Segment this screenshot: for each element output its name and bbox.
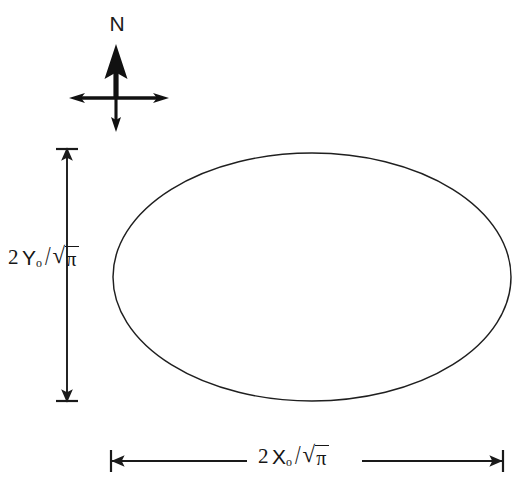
- compass-north-label: N: [96, 12, 138, 36]
- technical-diagram: N 2Yo/√π 2Xo/√π: [0, 0, 527, 491]
- horizontal-dimension-label: 2Xo/√π: [258, 443, 329, 470]
- vertical-dimension-label: 2Yo/√π: [8, 244, 79, 271]
- vertical-dimension-coefficient: 2: [8, 247, 19, 268]
- vertical-dimension-radical-sign: √: [53, 244, 66, 267]
- vertical-dimension-radicand: π: [65, 246, 79, 269]
- compass-north-arrow-icon: [105, 44, 128, 98]
- horizontal-dimension-radical-sign: √: [303, 443, 316, 466]
- vertical-dimension-radical: √π: [53, 245, 80, 268]
- horizontal-dimension-variable: X: [272, 446, 286, 467]
- horizontal-dimension-coefficient: 2: [258, 446, 269, 467]
- horizontal-dimension-radical: √π: [303, 444, 330, 467]
- compass-rose-icon: [69, 44, 169, 132]
- vertical-dimension-variable: Y: [22, 247, 36, 268]
- vertical-dimension-divider: /: [45, 243, 51, 270]
- compass-east-arrow-icon: [116, 93, 169, 103]
- horizontal-dimension-divider: /: [295, 442, 301, 469]
- compass-west-arrow-icon: [69, 93, 116, 103]
- vertical-dimension-subscript: o: [36, 257, 42, 269]
- horizontal-dimension-radicand: π: [315, 445, 329, 468]
- ellipse-outline: [113, 153, 511, 401]
- vertical-dimension-line: [56, 148, 78, 402]
- horizontal-dimension-subscript: o: [286, 456, 292, 468]
- compass-south-arrow-icon: [111, 98, 121, 132]
